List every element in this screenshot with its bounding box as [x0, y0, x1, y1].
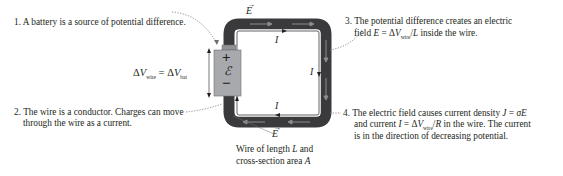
leader-2	[186, 104, 222, 112]
battery-plus: +	[222, 52, 231, 63]
note-2-line-2: through the wire as a current.	[23, 118, 132, 129]
label-E-top: →E	[246, 5, 252, 16]
voltage-equation: ΔVwire = ΔVbat	[133, 67, 187, 80]
label-I-bottom: I	[275, 100, 278, 111]
battery-minus: −	[222, 78, 231, 89]
note-4-line-2: and current I = ΔVwire/R in the wire. Th…	[354, 119, 531, 131]
note-1: 1. A battery is a source of potential di…	[14, 17, 186, 28]
note-4-line-3: is in the direction of decreasing potent…	[354, 131, 508, 142]
note-3-line-2: field E = ΔVwire/L inside the wire.	[354, 28, 478, 40]
note-2-line-1: 2. The wire is a conductor. Charges can …	[14, 107, 184, 118]
note-4-line-1: 4. The electric field causes current den…	[343, 108, 527, 119]
wire-caption-line-1: Wire of length L and	[236, 144, 313, 155]
label-I-right: I	[310, 66, 313, 77]
label-I-top: I	[275, 34, 278, 45]
field-arrows	[243, 22, 328, 124]
note-3-line-1: 3. The potential difference creates an e…	[345, 16, 512, 27]
label-E-bottom: →E	[272, 128, 278, 139]
wire-caption-line-2: cross-section area A	[236, 156, 310, 167]
